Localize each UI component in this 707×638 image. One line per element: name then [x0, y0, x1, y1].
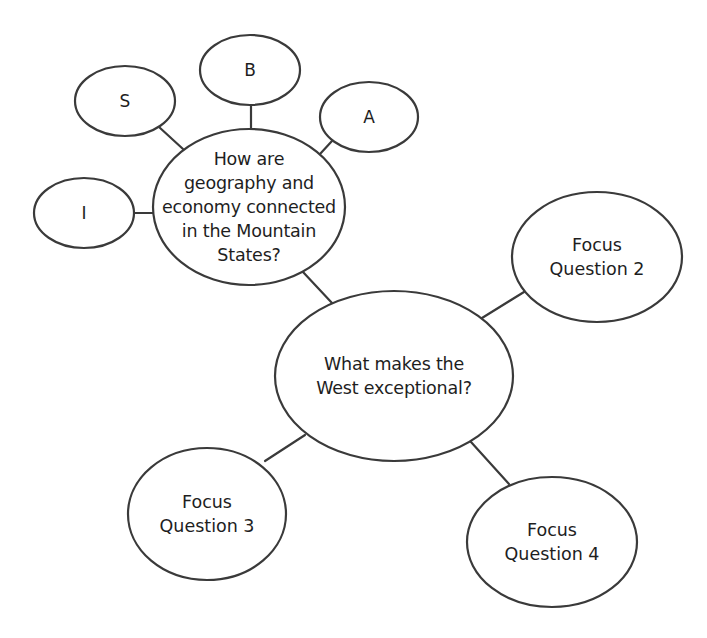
connector-fq1-central	[303, 272, 332, 303]
connector-s-fq1	[159, 127, 183, 149]
connector-central-fq3	[265, 435, 305, 461]
sub-node-i-label: I	[38, 203, 130, 223]
sub-node-s-label: S	[79, 91, 171, 111]
focus-question-2-label: Focus Question 2	[516, 233, 678, 281]
web-organizer-diagram: What makes the West exceptional? How are…	[0, 0, 707, 638]
sub-node-a-label: A	[324, 107, 414, 127]
sub-node-b-label: B	[204, 60, 296, 80]
connector-central-fq4	[471, 442, 509, 484]
central-question-label: What makes the West exceptional?	[279, 352, 509, 400]
focus-question-3-label: Focus Question 3	[132, 490, 282, 538]
connector-central-fq2	[482, 292, 524, 318]
focus-question-1-label: How are geography and economy connected …	[157, 147, 341, 267]
focus-question-4-label: Focus Question 4	[471, 518, 633, 566]
